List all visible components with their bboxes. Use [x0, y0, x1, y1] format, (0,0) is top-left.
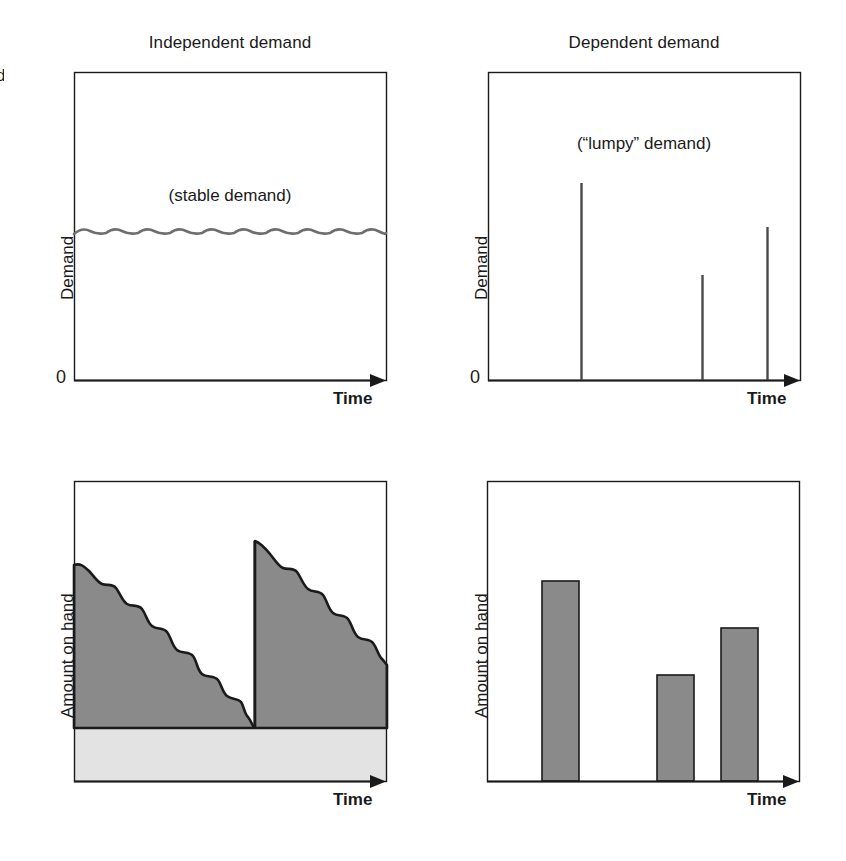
inventory-bar-2	[657, 675, 694, 781]
x-axis-arrowhead-inventory-right	[783, 775, 799, 788]
inventory-bar-1	[542, 581, 579, 781]
figure-root: d Independent demand Demand 0 (stable de…	[0, 0, 846, 861]
panel-dependent-inventory: Amount on hand Time	[0, 0, 846, 861]
plot-dependent-inventory	[0, 0, 846, 861]
inventory-bar-3	[721, 628, 758, 781]
